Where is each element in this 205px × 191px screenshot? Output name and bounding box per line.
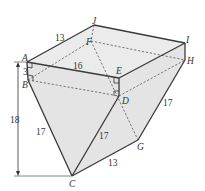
measure-height: 18 xyxy=(10,115,20,125)
measure-ae: 16 xyxy=(73,61,83,71)
vertex-label-e: E xyxy=(115,66,122,76)
vertex-label-c: C xyxy=(69,179,76,189)
measure-dc: 17 xyxy=(99,131,109,141)
measure-cg: 13 xyxy=(108,158,118,168)
vertex-label-h: H xyxy=(186,56,195,66)
vertex-label-a: A xyxy=(21,53,28,63)
vertex-label-i: I xyxy=(185,35,190,45)
vertex-label-b: B xyxy=(22,80,28,90)
solid-figure-diagram: A B C D E F G H I J 13 16 3 17 17 17 13 … xyxy=(0,0,205,191)
vertex-label-g: G xyxy=(137,142,144,152)
measure-ab: 3 xyxy=(23,67,28,77)
vertex-label-d: D xyxy=(121,96,129,106)
measure-aj: 13 xyxy=(55,33,65,43)
vertex-label-f: F xyxy=(85,37,92,47)
measure-bc: 17 xyxy=(36,127,46,137)
measure-hg: 17 xyxy=(163,98,173,108)
vertex-label-j: J xyxy=(92,16,97,26)
